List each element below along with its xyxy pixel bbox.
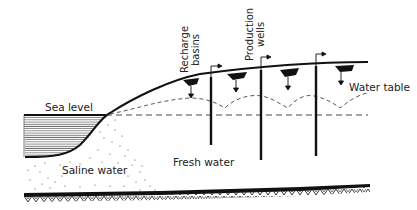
recharge-basins-label-line2: basins	[190, 34, 201, 66]
production-wells-label-line2: wells	[255, 22, 266, 47]
production-wells-label-line1: Production	[244, 8, 255, 61]
production-wells	[211, 66, 316, 160]
recharge-basin-2	[227, 72, 247, 80]
sea-level-label: Sea level	[45, 101, 93, 113]
recharge-basin-1	[183, 78, 199, 86]
saline-water-label: Saline water	[62, 164, 128, 176]
aquifer-diagram: Sea level Saline water Fresh water Water…	[0, 0, 417, 210]
sea-water	[24, 115, 106, 157]
fresh-water-label: Fresh water	[173, 156, 235, 168]
recharge-basins-label-line1: Recharge	[179, 26, 190, 73]
water-table-line	[110, 93, 368, 114]
water-table-label: Water table	[349, 81, 410, 93]
recharge-basin-4	[335, 65, 354, 72]
recharge-basin-3	[280, 68, 299, 77]
